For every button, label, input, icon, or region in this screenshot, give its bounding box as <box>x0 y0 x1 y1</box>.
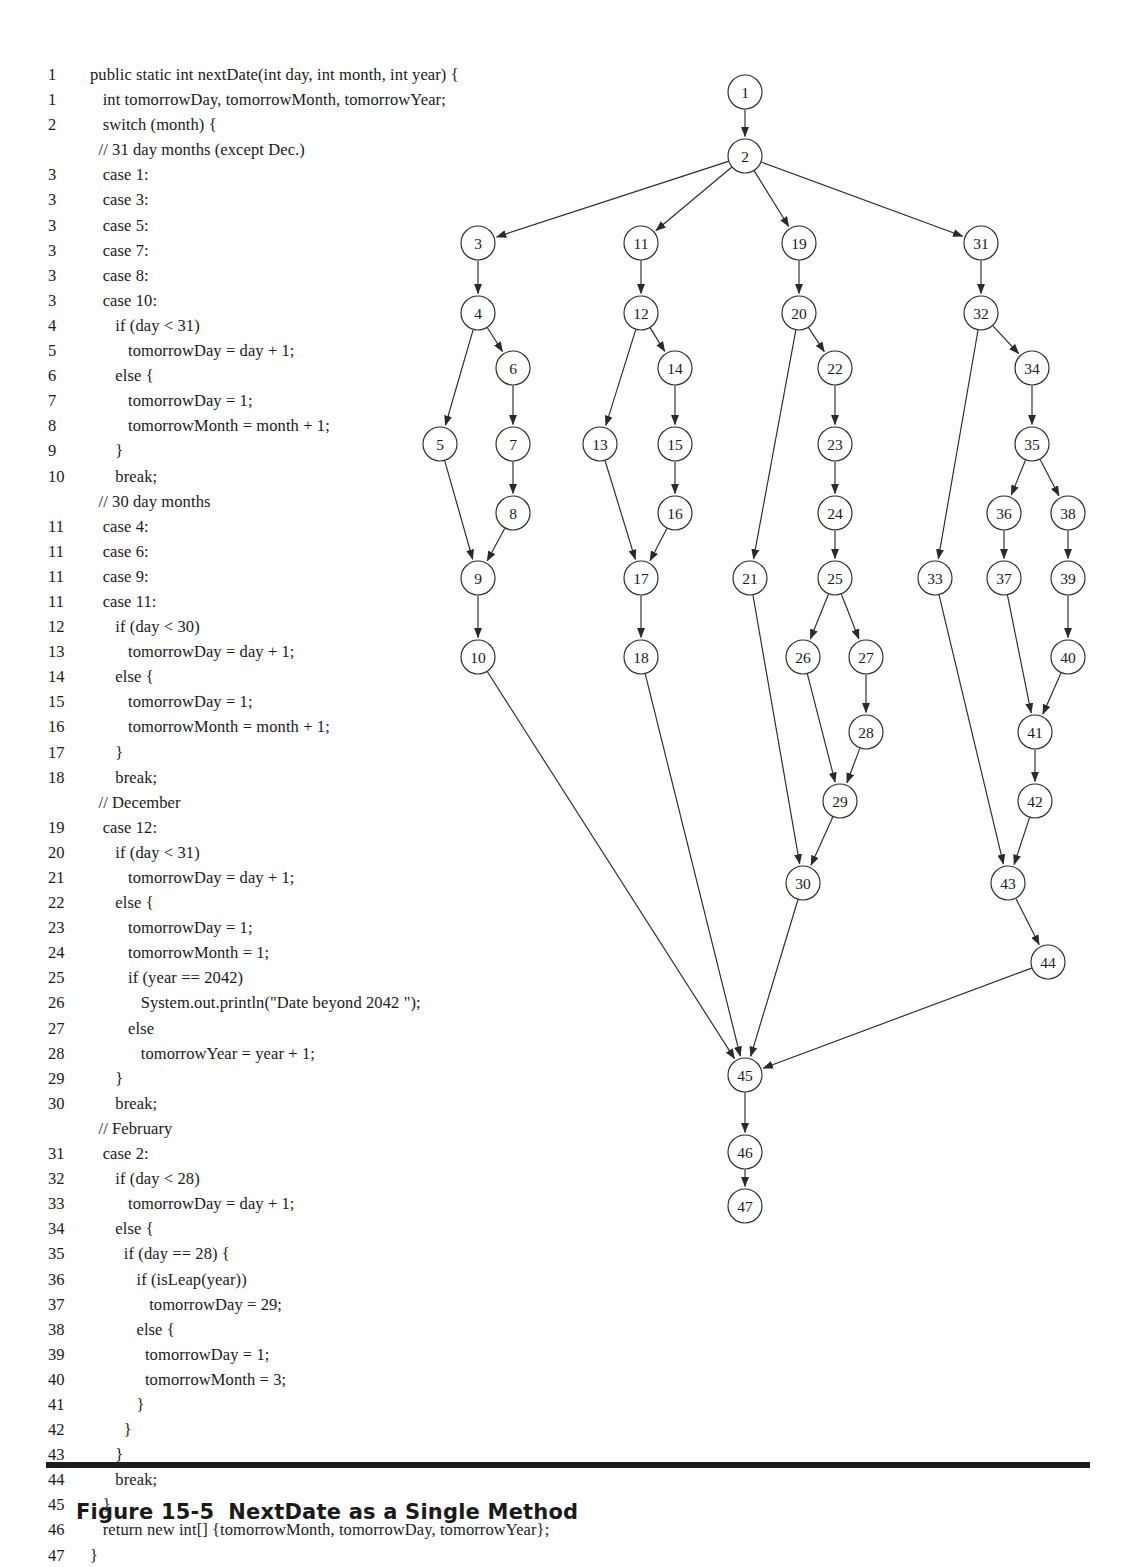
code-line-text: System.out.println("Date beyond 2042 "); <box>90 990 421 1015</box>
code-line-number: 1 <box>48 62 90 87</box>
code-line-text: if (day == 28) { <box>90 1241 230 1266</box>
graph-node: 45 <box>728 1058 762 1092</box>
graph-edge <box>487 328 502 352</box>
code-line-text: case 11: <box>90 589 156 614</box>
graph-node-label: 42 <box>1027 793 1043 810</box>
code-line-number: 35 <box>48 1241 90 1266</box>
graph-node-label: 33 <box>927 570 943 587</box>
code-line-text: tomorrowMonth = 3; <box>90 1367 286 1392</box>
graph-edge <box>809 328 825 352</box>
graph-edge <box>810 594 828 639</box>
graph-node-label: 27 <box>858 649 874 666</box>
code-line-text: tomorrowMonth = month + 1; <box>90 714 330 739</box>
code-line-text: } <box>90 1066 123 1091</box>
graph-node-label: 20 <box>791 305 807 322</box>
code-line-text: int tomorrowDay, tomorrowMonth, tomorrow… <box>90 87 446 112</box>
code-line-text: if (day < 31) <box>90 840 200 865</box>
code-line-number: 39 <box>48 1342 90 1367</box>
graph-edge <box>751 900 798 1057</box>
code-line-number: 11 <box>48 514 90 539</box>
code-line-number: 12 <box>48 614 90 639</box>
code-line-number: 41 <box>48 1392 90 1417</box>
graph-node-label: 29 <box>832 793 848 810</box>
graph-edge <box>606 330 636 426</box>
code-line-text: else <box>90 1016 154 1041</box>
code-line-text: else { <box>90 1216 154 1241</box>
graph-node: 43 <box>991 866 1025 900</box>
graph-node: 9 <box>461 561 495 595</box>
code-line-number: 18 <box>48 765 90 790</box>
code-line-number: 38 <box>48 1317 90 1342</box>
graph-edge <box>938 330 978 559</box>
graph-node: 38 <box>1051 496 1085 530</box>
code-line-text: tomorrowYear = year + 1; <box>90 1041 315 1066</box>
code-line-text: tomorrowDay = day + 1; <box>90 338 295 363</box>
code-line-text: case 9: <box>90 564 149 589</box>
graph-node-label: 12 <box>633 305 649 322</box>
graph-node: 2 <box>728 139 762 173</box>
graph-edges <box>445 110 1068 1187</box>
code-line: 38 else { <box>48 1317 668 1342</box>
code-line-text: break; <box>90 464 157 489</box>
code-line-number: 3 <box>48 213 90 238</box>
figure-divider-rule <box>46 1462 1090 1468</box>
code-line-text: case 4: <box>90 514 149 539</box>
graph-node: 12 <box>624 296 658 330</box>
code-line-number: 9 <box>48 438 90 463</box>
graph-node: 7 <box>496 427 530 461</box>
graph-node-label: 4 <box>474 305 482 322</box>
code-line-text: tomorrowDay = day + 1; <box>90 1191 295 1216</box>
code-line-text: else { <box>90 890 154 915</box>
code-line-text: tomorrowDay = 1; <box>90 388 253 413</box>
graph-edge <box>656 167 732 230</box>
graph-node-label: 6 <box>509 360 517 377</box>
code-line-text: tomorrowDay = 29; <box>90 1292 282 1317</box>
graph-node: 42 <box>1018 784 1052 818</box>
graph-node: 20 <box>782 296 816 330</box>
graph-edge <box>1014 818 1029 865</box>
code-line-text: if (isLeap(year)) <box>90 1267 247 1292</box>
graph-node: 28 <box>849 715 883 749</box>
graph-node-label: 34 <box>1024 360 1040 377</box>
code-line-text: else { <box>90 363 154 388</box>
graph-node-label: 21 <box>742 570 758 587</box>
code-line-text: tomorrowDay = 1; <box>90 689 253 714</box>
code-line-text: tomorrowDay = day + 1; <box>90 865 295 890</box>
graph-node-label: 36 <box>996 505 1012 522</box>
graph-edge <box>807 674 835 782</box>
code-line-number: 3 <box>48 187 90 212</box>
code-line-text: break; <box>90 765 157 790</box>
graph-node: 14 <box>658 351 692 385</box>
graph-node: 25 <box>818 561 852 595</box>
code-line-number: 13 <box>48 639 90 664</box>
graph-node-label: 39 <box>1060 570 1076 587</box>
graph-node-label: 5 <box>436 436 444 453</box>
graph-node: 3 <box>461 226 495 260</box>
code-line-number: 3 <box>48 263 90 288</box>
graph-edge <box>445 330 473 425</box>
code-line-number: 24 <box>48 940 90 965</box>
code-line: 36 if (isLeap(year)) <box>48 1267 668 1292</box>
graph-node: 1 <box>728 75 762 109</box>
graph-node: 16 <box>658 496 692 530</box>
graph-node: 35 <box>1015 427 1049 461</box>
code-line-number: 2 <box>48 112 90 137</box>
graph-edge <box>1043 673 1061 714</box>
graph-node-label: 44 <box>1040 954 1056 971</box>
graph-node-label: 14 <box>667 360 683 377</box>
graph-node: 17 <box>624 561 658 595</box>
graph-node: 23 <box>818 427 852 461</box>
code-line-number: 36 <box>48 1267 90 1292</box>
code-line-number: 34 <box>48 1216 90 1241</box>
code-line-text: case 10: <box>90 288 157 313</box>
graph-node-label: 28 <box>858 724 874 741</box>
code-line-text: } <box>90 740 123 765</box>
code-line-text: // February <box>90 1116 172 1141</box>
graph-node-label: 43 <box>1000 875 1016 892</box>
graph-node: 32 <box>964 296 998 330</box>
graph-node: 37 <box>987 561 1021 595</box>
graph-node-label: 41 <box>1027 724 1043 741</box>
graph-edge <box>847 748 860 782</box>
graph-edge <box>841 594 858 639</box>
graph-node: 5 <box>423 427 457 461</box>
